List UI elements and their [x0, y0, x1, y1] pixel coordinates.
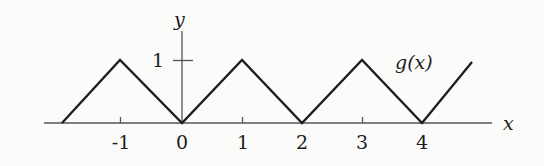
x-tick-label-4: 4 [404, 133, 440, 152]
plot-canvas [0, 0, 544, 166]
x-tick-label-1: 1 [225, 133, 261, 152]
x-tick-label-0: 0 [164, 133, 200, 152]
curve-label-g: g(x) [395, 53, 433, 72]
y-axis-label: y [174, 10, 185, 29]
x-tick-label-3: 3 [344, 133, 380, 152]
x-tick-label-2: 2 [284, 133, 320, 152]
y-tick-label-1: 1 [152, 51, 164, 70]
x-axis-label: x [503, 114, 514, 133]
x-tick-label-minus1: -1 [103, 133, 139, 152]
function-graph-figure: y x 1 -1 0 1 2 3 4 g(x) [0, 0, 544, 166]
